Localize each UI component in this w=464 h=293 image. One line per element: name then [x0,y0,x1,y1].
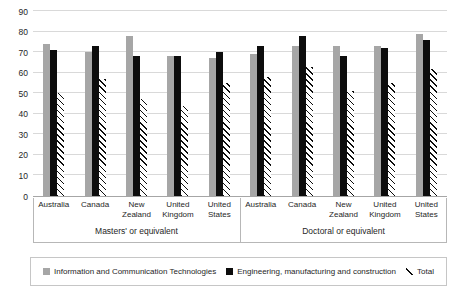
axis-separator-left [33,198,34,243]
axis-separator-middle [240,198,241,243]
bar-ict [85,52,92,196]
legend-item-engineering: Engineering, manufacturing and construct… [226,267,396,276]
bar-cluster [333,46,354,196]
bar-engineering [50,50,57,196]
country-labels-half: AustraliaCanadaNew ZealandUnited Kingdom… [33,200,240,226]
y-tick-label: 30 [0,130,28,141]
bar-cluster [374,46,395,196]
y-tick-label: 80 [0,27,28,38]
country-label: United States [406,200,447,226]
legend: Information and Communication Technologi… [30,257,447,286]
legend-item-ict: Information and Communication Technologi… [43,267,216,276]
bar-engineering [423,40,430,196]
y-tick-label: 50 [0,89,28,100]
bar-engineering [257,46,264,196]
country-label: United States [199,200,240,226]
bar-total [223,83,230,196]
bar-ict [292,46,299,196]
bar-total [99,79,106,196]
y-tick-label: 10 [0,171,28,182]
bar-total [57,93,64,196]
bar-cluster [250,46,271,196]
country-label: New Zealand [323,200,364,226]
group-label-doctoral: Doctoral or equivalent [240,226,447,240]
bar-cluster [85,46,106,196]
bar-cluster [209,52,230,196]
legend-marker-total-icon [406,268,413,275]
legend-item-total: Total [406,267,434,276]
axis-separator-right [446,198,447,243]
bar-engineering [381,48,388,196]
bar-cluster [43,44,64,196]
country-label: Australia [33,200,74,226]
bar-ict [167,56,174,196]
bar-total [264,77,271,196]
y-tick-label: 70 [0,48,28,59]
legend-label-engineering: Engineering, manufacturing and construct… [237,267,396,276]
country-labels-half: AustraliaCanadaNew ZealandUnited Kingdom… [240,200,447,226]
bar-total [388,83,395,196]
bar-total [181,106,188,196]
bar-engineering [133,56,140,196]
bar-ict [43,44,50,196]
legend-label-total: Total [417,267,434,276]
bar-ict [209,58,216,196]
country-label: Canada [74,200,115,226]
bar-chart: 0102030405060708090 AustraliaCanadaNew Z… [0,0,464,293]
bar-group-doctoral [240,12,447,196]
country-label: New Zealand [116,200,157,226]
bar-total [430,69,437,196]
bar-ict [333,46,340,196]
bar-engineering [216,52,223,196]
legend-marker-ict-icon [43,268,50,275]
legend-label-ict: Information and Communication Technologi… [54,267,216,276]
y-tick-label: 90 [0,7,28,18]
country-label: United Kingdom [364,200,405,226]
category-axis: AustraliaCanadaNew ZealandUnited Kingdom… [33,198,447,243]
bar-ict [250,54,257,196]
plot-area [33,12,447,197]
y-tick-label: 40 [0,109,28,120]
y-tick-label: 0 [0,192,28,203]
bar-cluster [126,36,147,196]
bar-ict [416,34,423,196]
gridline [33,10,447,11]
bar-engineering [340,56,347,196]
country-label: Canada [281,200,322,226]
bar-cluster [167,56,188,196]
y-tick-label: 60 [0,68,28,79]
bar-engineering [299,36,306,196]
bar-engineering [174,56,181,196]
bar-total [140,99,147,196]
bar-ict [126,36,133,196]
bars-layer [33,12,447,196]
bar-group-masters [33,12,240,196]
bar-cluster [292,36,313,196]
country-label: United Kingdom [157,200,198,226]
bar-engineering [92,46,99,196]
bar-cluster [416,34,437,196]
bar-total [347,91,354,196]
country-label: Australia [240,200,281,226]
legend-marker-engineering-icon [226,268,233,275]
group-label-masters: Masters' or equivalent [33,226,240,240]
y-tick-label: 20 [0,150,28,161]
bar-ict [374,46,381,196]
bar-total [306,67,313,197]
